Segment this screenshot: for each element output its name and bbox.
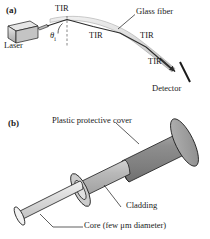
plastic-cover-label: Plastic protective cover	[52, 116, 132, 125]
panel-a-tag: (a)	[6, 6, 17, 15]
glass-fiber-label: Glass fiber	[136, 7, 173, 16]
cover-leader	[116, 123, 139, 144]
glass-fiber-leader	[118, 15, 135, 30]
laser-label: Laser	[4, 41, 23, 50]
core-cylinder	[12, 181, 83, 226]
panel-b-tag: (b)	[8, 119, 19, 128]
theta-subscript: i	[54, 36, 56, 42]
core-label: Core (few μm diameter)	[84, 221, 166, 230]
cladding-leader	[104, 185, 121, 207]
incidence-angle-label: θi	[50, 31, 56, 42]
cladding-label: Cladding	[126, 201, 157, 210]
tir-label-4: TIR	[148, 57, 162, 66]
detector-icon	[180, 62, 190, 82]
tir-label-2: TIR	[89, 31, 103, 40]
plastic-cover-cylinder	[122, 115, 204, 182]
tir-label-1: TIR	[55, 4, 69, 13]
fiber-optic-figure: (a) Laser TIR TIR TIR TIR θi Glass fiber…	[0, 0, 210, 239]
detector-label: Detector	[152, 84, 181, 93]
tir-label-3: TIR	[140, 31, 154, 40]
core-leader	[40, 214, 83, 227]
